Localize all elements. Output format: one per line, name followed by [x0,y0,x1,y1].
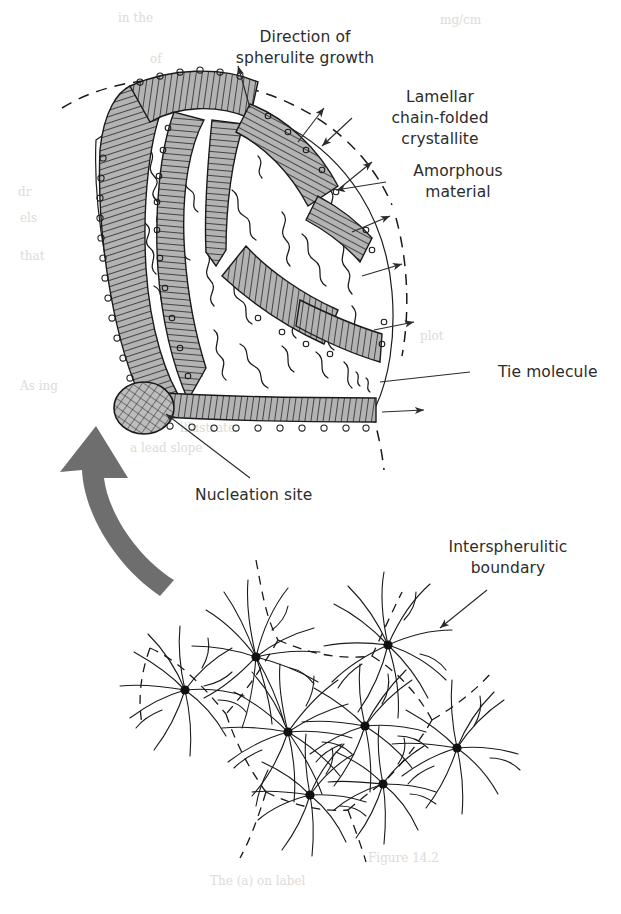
label-line: material [425,183,491,201]
bleed-text: illustrate [180,421,235,435]
label-line: Nucleation site [195,486,312,504]
bleed-text: The (a) on label [210,874,306,888]
nucleation-dot [305,790,314,799]
label-line: Interspherulitic [449,538,568,556]
spherulite-diagram: in the mg/cm of 0000 dr els that labeled… [0,0,621,914]
nucleation-dot [378,779,387,788]
nucleation-dot [251,652,260,661]
nucleation-dot [283,727,292,736]
label-line: Tie molecule [497,363,598,381]
label-tie-molecule: Tie molecule [497,363,598,381]
nucleation-site-marker [114,382,174,434]
bleed-text: plot [420,329,444,343]
bleed-text: in the [118,11,153,25]
nucleation-dot [360,721,369,730]
label-line: Amorphous [413,162,503,180]
bleed-text: mg/cm [440,13,482,27]
nucleation-dot [383,640,392,649]
bleed-text: Figure 14.2 [368,851,439,865]
label-line: crystallite [401,130,478,148]
bleed-text: that [20,249,45,263]
nucleation-dot [452,743,461,752]
bleed-text: of [150,52,163,66]
label-line: spherulite growth [236,49,374,67]
label-line: Lamellar [406,88,475,106]
label-line: boundary [471,559,546,577]
bleed-text: els [20,211,37,225]
nucleation-dot [180,685,189,694]
bleed-text: a lead slope [130,441,203,455]
bleed-text: dr [18,185,32,199]
figure-root: in the mg/cm of 0000 dr els that labeled… [0,0,621,914]
label-nucleation-site: Nucleation site [195,486,312,504]
bleed-text: As ing [19,379,58,393]
label-line: Direction of [259,28,351,46]
label-line: chain-folded [391,109,488,127]
